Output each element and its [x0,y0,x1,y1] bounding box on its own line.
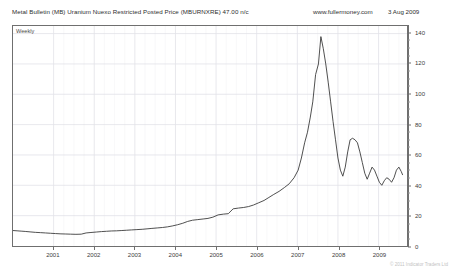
chart-page: Metal Bulletin (MB) Uranium Nuexo Restri… [0,0,451,274]
x-tick-label: 2008 [332,252,345,258]
source-website-label: www.fullermoney.com [313,8,373,15]
y-minor-tick [408,170,410,171]
y-minor-tick [408,201,410,202]
x-tick-mark [134,247,135,250]
y-tick-mark [408,93,411,94]
y-tick-label: 100 [415,91,425,97]
x-tick-label: 2009 [373,252,386,258]
x-tick-label: 2003 [128,252,141,258]
x-tick-mark [339,247,340,250]
y-tick-mark [408,185,411,186]
y-tick-mark [408,32,411,33]
y-minor-tick [408,132,410,133]
chart-date-label: 3 Aug 2009 [388,8,419,15]
x-tick-mark [94,247,95,250]
x-tick-label: 2007 [291,252,304,258]
y-tick-label: 120 [415,60,425,66]
x-tick-mark [257,247,258,250]
y-tick-label: 80 [415,122,422,128]
y-minor-tick [408,178,410,179]
x-tick-label: 2004 [169,252,182,258]
y-minor-tick [408,109,410,110]
price-series-line [13,26,407,246]
y-minor-tick [408,40,410,41]
x-tick-label: 2001 [46,252,59,258]
y-minor-tick [408,147,410,148]
y-tick-mark [408,63,411,64]
y-tick-mark [408,124,411,125]
x-tick-mark [379,247,380,250]
y-minor-tick [408,162,410,163]
y-minor-tick [408,224,410,225]
x-axis: 200120022003200420052006200720082009 [12,247,408,263]
y-minor-tick [408,55,410,56]
y-tick-label: 60 [415,152,422,158]
y-tick-label: 20 [415,213,422,219]
y-minor-tick [408,208,410,209]
y-tick-mark [408,247,411,248]
x-tick-label: 2002 [87,252,100,258]
plot-area: Weekly [12,25,408,247]
y-axis-line [408,25,409,247]
y-minor-tick [408,116,410,117]
y-axis: 020406080100120140 [408,25,451,247]
y-minor-tick [408,239,410,240]
y-minor-tick [408,101,410,102]
y-tick-mark [408,216,411,217]
x-tick-mark [298,247,299,250]
y-tick-label: 40 [415,183,422,189]
copyright-label: © 2011 Indicator Traders Ltd [300,262,448,267]
chart-header: Metal Bulletin (MB) Uranium Nuexo Restri… [0,8,451,20]
x-tick-mark [216,247,217,250]
y-minor-tick [408,86,410,87]
y-minor-tick [408,70,410,71]
y-minor-tick [408,193,410,194]
y-minor-tick [408,47,410,48]
x-tick-mark [175,247,176,250]
y-tick-label: 140 [415,30,425,36]
x-tick-label: 2006 [250,252,263,258]
chart-title: Metal Bulletin (MB) Uranium Nuexo Restri… [12,8,249,15]
y-tick-mark [408,155,411,156]
frequency-label: Weekly [16,28,34,34]
y-minor-tick [408,139,410,140]
y-minor-tick [408,231,410,232]
x-tick-mark [53,247,54,250]
plot-inner: Weekly [13,26,407,246]
y-minor-tick [408,78,410,79]
y-tick-label: 0 [415,244,418,250]
x-tick-label: 2005 [209,252,222,258]
